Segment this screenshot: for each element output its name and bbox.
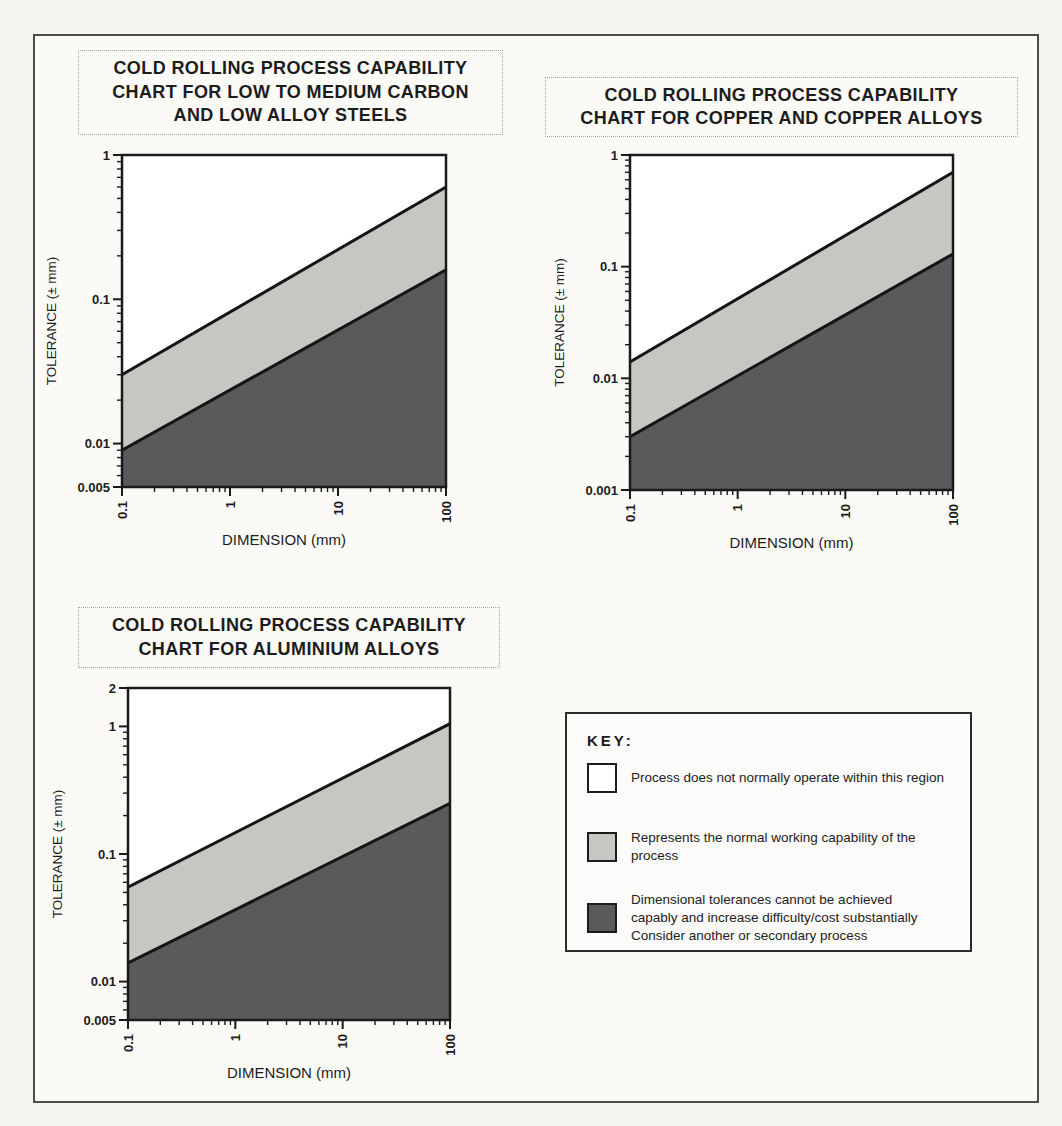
chart-steels: 0.111010010.10.010.005DIMENSION (mm)TOLE…: [30, 140, 530, 585]
y-tick-label: 1: [109, 719, 116, 734]
light-gray-region-swatch: [587, 832, 617, 862]
y-tick-label: 0.001: [585, 483, 618, 498]
key-legend-box: KEY: Process does not normally operate w…: [565, 712, 972, 952]
key-item-normal-region: Represents the normal working capability…: [587, 829, 954, 865]
x-tick-label: 10: [838, 504, 853, 518]
y-tick-label: 0.01: [85, 436, 110, 451]
x-tick-label: 1: [730, 504, 745, 511]
y-tick-label: 0.1: [92, 292, 110, 307]
x-tick-label: 1: [223, 501, 238, 508]
x-tick-label: 1: [228, 1034, 243, 1041]
y-tick-label: 0.01: [91, 974, 116, 989]
white-region-swatch: [587, 763, 617, 793]
x-tick-label: 0.1: [623, 504, 638, 522]
y-tick-label: 1: [611, 148, 618, 163]
x-tick-label: 0.1: [115, 501, 130, 519]
chart-copper: 0.111010010.10.010.001DIMENSION (mm)TOLE…: [538, 140, 1038, 588]
x-tick-label: 10: [331, 501, 346, 515]
x-tick-label: 0.1: [121, 1034, 136, 1052]
key-item-label: Represents the normal working capability…: [631, 829, 915, 865]
key-item-label: Process does not normally operate within…: [631, 769, 944, 787]
x-tick-label: 10: [335, 1034, 350, 1048]
key-item-incapable-region: Dimensional tolerances cannot be achieve…: [587, 891, 954, 945]
x-axis-title: DIMENSION (mm): [729, 534, 853, 551]
y-tick-label: 0.1: [98, 847, 116, 862]
y-axis-title: TOLERANCE (± mm): [50, 790, 65, 919]
x-tick-label: 100: [946, 504, 961, 526]
chart-aluminium: 0.1110100210.10.010.005DIMENSION (mm)TOL…: [36, 673, 536, 1118]
y-axis-title: TOLERANCE (± mm): [552, 258, 567, 387]
y-axis-title: TOLERANCE (± mm): [44, 257, 59, 386]
chart-title-steels: COLD ROLLING PROCESS CAPABILITY CHART FO…: [78, 50, 503, 135]
x-tick-label: 100: [443, 1034, 458, 1056]
key-title: KEY:: [587, 732, 954, 749]
y-tick-label: 0.005: [83, 1013, 116, 1028]
key-item-label: Dimensional tolerances cannot be achieve…: [631, 891, 917, 945]
y-tick-label: 0.1: [600, 259, 618, 274]
scanned-figure-page: { "page": { "background": "#f6f5f2", "fr…: [0, 0, 1062, 1126]
chart-title-copper: COLD ROLLING PROCESS CAPABILITY CHART FO…: [545, 77, 1018, 137]
x-axis-title: DIMENSION (mm): [222, 531, 346, 548]
dark-gray-region-swatch: [587, 903, 617, 933]
x-tick-label: 100: [439, 501, 454, 523]
y-tick-label: 0.01: [593, 371, 618, 386]
key-item-white-region: Process does not normally operate within…: [587, 763, 954, 793]
x-axis-title: DIMENSION (mm): [227, 1064, 351, 1081]
y-tick-label: 2: [109, 681, 116, 696]
y-tick-label: 0.005: [77, 480, 110, 495]
y-tick-label: 1: [103, 148, 110, 163]
chart-title-aluminium: COLD ROLLING PROCESS CAPABILITY CHART FO…: [78, 607, 500, 668]
